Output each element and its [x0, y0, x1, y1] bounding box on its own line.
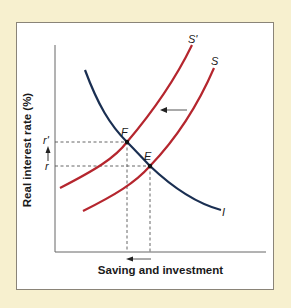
shift-left-arrow-icon: [160, 107, 187, 113]
point-f-label: F: [121, 126, 128, 138]
curve-s-prime: [60, 45, 192, 188]
y-axis-title: Real interest rate (%): [21, 93, 33, 207]
curve-i-label: I: [222, 206, 225, 218]
curve-i: [85, 70, 221, 210]
curve-s: [83, 68, 214, 211]
curve-s-prime-label: S': [188, 33, 197, 45]
tick-r-prime: r': [43, 134, 49, 146]
curve-s-label: S: [211, 55, 218, 67]
quantity-left-arrow-icon: [126, 257, 151, 262]
rate-up-arrow-icon: [46, 146, 51, 161]
point-e-label: E: [144, 150, 151, 162]
point-f-marker: [125, 140, 129, 144]
tick-r: r: [45, 160, 49, 172]
point-e-marker: [148, 164, 152, 168]
x-axis-title: Saving and investment: [55, 264, 266, 276]
guide-lines: [55, 142, 150, 252]
